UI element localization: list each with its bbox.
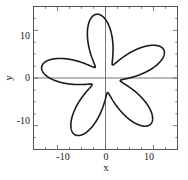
figure: -10 0 10 -10 0 10 x y [0, 0, 188, 180]
y-tick-label: -10 [10, 116, 30, 126]
y-tick-label: 10 [10, 31, 30, 41]
curve-path [42, 14, 165, 135]
x-tick-label: 10 [144, 152, 154, 162]
plot-canvas [0, 0, 188, 180]
x-axis-title: x [103, 162, 109, 173]
y-axis-title: y [3, 75, 14, 81]
x-tick-label: -10 [56, 152, 69, 162]
